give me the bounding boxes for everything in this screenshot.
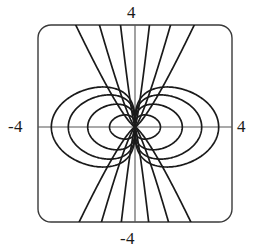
axis-label-bottom: -4 bbox=[120, 230, 135, 247]
axis-label-right: 4 bbox=[237, 118, 246, 135]
axis-label-left: -4 bbox=[8, 118, 23, 135]
axis-label-top: 4 bbox=[127, 4, 136, 21]
plot-figure: 4 -4 -4 4 bbox=[0, 0, 261, 252]
plot-canvas bbox=[0, 0, 261, 252]
